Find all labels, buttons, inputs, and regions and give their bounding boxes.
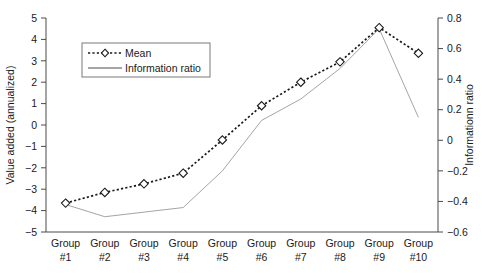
data-point-marker (297, 78, 305, 86)
y-axis-left-tick-label: 0 (31, 119, 37, 131)
y-axis-right-tick-label: 0.8 (447, 12, 462, 24)
y-axis-left-tick-label: −2 (25, 162, 37, 174)
legend-label-information-ratio: Information ratio (125, 62, 201, 74)
x-axis-tick-label: #7 (295, 251, 307, 263)
x-axis-tick-label: #10 (410, 251, 428, 263)
x-axis-tick-label: Group (51, 237, 80, 249)
x-axis-tick-label: #1 (60, 251, 72, 263)
x-axis-tick-label: Group (129, 237, 158, 249)
y-axis-right-title: Informationn ratio (463, 84, 475, 166)
legend: Mean Information ratio (82, 43, 210, 77)
x-axis-tick-label: #5 (217, 251, 229, 263)
x-axis-tick-label: Group (286, 237, 315, 249)
y-axis-right-tick-label: 0.6 (447, 42, 462, 54)
y-axis-left-tick-label: −4 (25, 204, 37, 216)
y-axis-left-tick-label: −5 (25, 226, 37, 238)
y-axis-right-tick-label: 0 (447, 134, 453, 146)
y-axis-left-tick-label: −1 (25, 140, 37, 152)
data-point-marker (61, 199, 69, 207)
x-axis-tick-label: Group (247, 237, 276, 249)
y-axis-right-tick-label: 0.4 (447, 73, 462, 85)
y-axis-left-tick-label: 4 (31, 33, 37, 45)
data-point-marker (101, 188, 109, 196)
x-axis-tick-label: #8 (334, 251, 346, 263)
x-axis-tick-label: #6 (256, 251, 268, 263)
chart-svg: 543210−1−2−3−4−5 0.80.60.40.20−0.2−0.4−0… (0, 0, 483, 278)
x-axis-tick-label: Group (325, 237, 354, 249)
x-axis-tick-label: Group (365, 237, 394, 249)
x-axis-tick-label: Group (169, 237, 198, 249)
x-axis-tick-label: #4 (177, 251, 189, 263)
legend-label-mean: Mean (125, 47, 151, 59)
y-axis-right-tick-label: 0.2 (447, 103, 462, 115)
data-point-marker (179, 169, 187, 177)
y-axis-right-tick-label: −0.4 (447, 195, 468, 207)
x-axis-category-labels: Group#1Group#2Group#3Group#4Group#5Group… (51, 237, 433, 263)
x-axis-tick-label: #9 (373, 251, 385, 263)
y-axis-left-tick-label: 2 (31, 76, 37, 88)
y-axis-left-ticks: 543210−1−2−3−4−5 (25, 12, 46, 238)
x-axis-tick-label: Group (208, 237, 237, 249)
y-axis-left-tick-label: 3 (31, 55, 37, 67)
y-axis-left-tick-label: −3 (25, 183, 37, 195)
data-point-marker (140, 180, 148, 188)
y-axis-right-tick-label: −0.6 (447, 226, 468, 238)
y-axis-left-title: Value added (annualized) (4, 66, 16, 185)
x-axis-tick-label: #3 (138, 251, 150, 263)
y-axis-left-tick-label: 1 (31, 97, 37, 109)
y-axis-left-tick-label: 5 (31, 12, 37, 24)
x-axis-tick-label: Group (90, 237, 119, 249)
x-axis-tick-label: Group (404, 237, 433, 249)
chart-container: 543210−1−2−3−4−5 0.80.60.40.20−0.2−0.4−0… (0, 0, 483, 278)
x-axis-tick-label: #2 (99, 251, 111, 263)
